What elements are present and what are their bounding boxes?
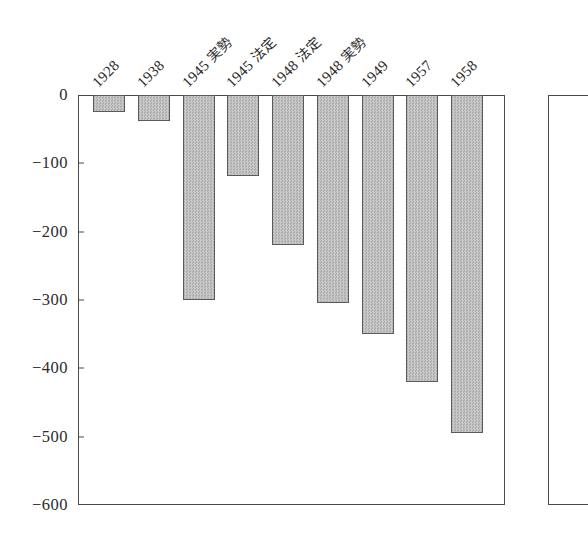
bar — [272, 95, 304, 245]
y-axis-tick-mark — [78, 163, 84, 164]
bar — [183, 95, 215, 300]
y-axis-tick-label: −100 — [32, 153, 68, 173]
bar — [451, 95, 483, 433]
bar — [406, 95, 438, 382]
y-axis-tick-mark — [78, 368, 84, 369]
y-axis-tick-label: −600 — [32, 495, 68, 515]
bar — [317, 95, 349, 303]
x-axis-tick-label: 1928 — [89, 57, 123, 91]
x-axis-tick-label: 1958 — [447, 57, 481, 91]
x-axis-tick-label: 1938 — [134, 57, 168, 91]
x-axis-labels: 192819381945 実勢1945 法定1948 法定1948 実勢1949… — [78, 0, 505, 95]
y-axis-tick-label: −200 — [32, 222, 68, 242]
y-axis-tick-mark — [78, 231, 84, 232]
y-axis-tick-label: 0 — [59, 85, 68, 105]
bar — [138, 95, 170, 121]
bars-group — [78, 95, 505, 505]
bar — [362, 95, 394, 334]
bar — [227, 95, 259, 176]
y-axis-tick-mark — [78, 436, 84, 437]
y-axis-tick-mark — [78, 300, 84, 301]
y-axis: 0−100−200−300−400−500−600 — [0, 0, 78, 549]
y-axis-tick-label: −300 — [32, 290, 68, 310]
y-axis-tick-label: −500 — [32, 427, 68, 447]
x-axis-tick-label: 1949 — [358, 57, 392, 91]
x-axis-tick-label: 1957 — [402, 57, 436, 91]
y-axis-tick-label: −400 — [32, 358, 68, 378]
plot-area-secondary-panel — [548, 95, 588, 505]
bar — [93, 95, 125, 112]
